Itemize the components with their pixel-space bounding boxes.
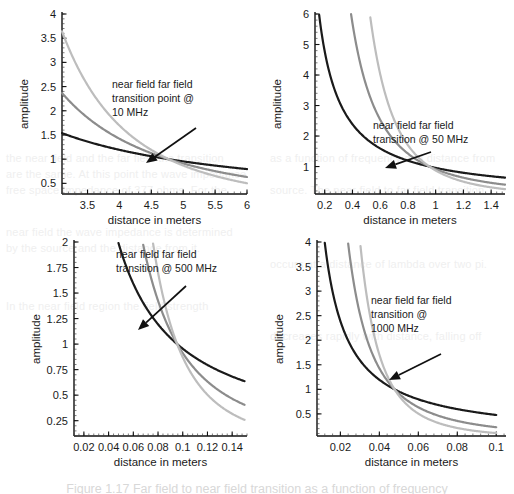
x-axis-tick-label: 0.08 (147, 441, 168, 453)
y-axis-tick-label: 2 (50, 105, 56, 117)
transition-annotation-line: transition @ 50 MHz (373, 133, 468, 145)
y-axis-tick-label: 0.5 (53, 389, 68, 401)
x-axis-tick-label: 0.8 (400, 199, 415, 211)
x-axis-tick-label: 0.04 (369, 441, 390, 453)
x-axis-title: distance in meters (114, 456, 208, 468)
y-axis-tick-label: 3 (50, 56, 56, 68)
plot-area: 1234560.20.40.60.811.21.4distance in met… (255, 0, 514, 228)
y-axis-tick-label: 3 (303, 100, 309, 112)
plot-area: 0.250.50.7511.251.51.7520.020.040.060.08… (0, 228, 255, 494)
data-curve-1r (319, 15, 505, 178)
y-axis-tick-label: 1.5 (41, 129, 56, 141)
x-axis-tick-label: 0.4 (345, 199, 360, 211)
figure-caption: Figure 1.17 Far field to near field tran… (0, 483, 514, 494)
y-axis-tick-label: 6 (303, 8, 309, 20)
y-axis-tick-label: 2.5 (41, 81, 56, 93)
x-axis-tick-label: 0.1 (175, 441, 190, 453)
y-axis-tick-label: 0.75 (47, 364, 68, 376)
y-axis-title: amplitude (30, 314, 42, 364)
annotation-arrow-shaft (155, 128, 196, 157)
x-axis-tick-label: 0.2 (317, 199, 332, 211)
x-axis-tick-label: 0.02 (330, 441, 351, 453)
x-axis-tick-label: 0.12 (197, 441, 218, 453)
y-axis-tick-label: 3.5 (296, 261, 311, 273)
x-axis-tick-label: 0.06 (408, 441, 429, 453)
chart-panel-50mhz: 1234560.20.40.60.811.21.4distance in met… (255, 0, 514, 228)
x-axis-tick-label: 4 (116, 199, 122, 211)
plot-area: 0.511.522.533.543.544.555.56distance in … (0, 0, 255, 228)
x-axis-tick-label: 1 (433, 199, 439, 211)
y-axis-tick-label: 1 (62, 338, 68, 350)
annotation-arrow-head (385, 160, 397, 169)
data-curve-1r2 (62, 93, 247, 177)
x-axis-tick-label: 0.14 (221, 441, 242, 453)
y-axis-tick-label: 1.5 (296, 359, 311, 371)
x-axis-tick-label: 0.04 (98, 441, 119, 453)
y-axis-tick-label: 1.75 (47, 262, 68, 274)
annotation-arrow-shaft (399, 354, 441, 375)
y-axis-tick-label: 0.5 (41, 177, 56, 189)
y-axis-title: amplitude (271, 79, 283, 129)
y-axis-tick-label: 2 (303, 130, 309, 142)
x-axis-tick-label: 6 (244, 199, 250, 211)
transition-annotation-line: near field far field (373, 119, 454, 131)
y-axis-tick-label: 1 (305, 383, 311, 395)
x-axis-title: distance in meters (365, 456, 459, 468)
y-axis-tick-label: 1 (50, 153, 56, 165)
y-axis-tick-label: 4 (50, 8, 56, 20)
y-axis-tick-label: 5 (303, 39, 309, 51)
annotation-arrow-shaft (146, 286, 186, 323)
transition-annotation-line: 1000 MHz (371, 322, 419, 334)
y-axis-title: amplitude (273, 314, 285, 364)
chart-panel-500mhz: 0.250.50.7511.251.51.7520.020.040.060.08… (0, 228, 255, 494)
transition-annotation-line: near field far field (371, 294, 452, 306)
y-axis-tick-label: 3 (305, 285, 311, 297)
data-curve-1r3 (360, 246, 496, 433)
x-axis-tick-label: 1.2 (456, 199, 471, 211)
x-axis-tick-label: 0.1 (489, 441, 504, 453)
transition-annotation-line: near field far field (112, 78, 193, 90)
y-axis-title: amplitude (18, 79, 30, 129)
chart-panel-10mhz: 0.511.522.533.543.544.555.56distance in … (0, 0, 255, 228)
x-axis-tick-label: 1.4 (483, 199, 498, 211)
transition-annotation-line: transition @ 500 MHz (116, 262, 217, 274)
chart-panel-1000mhz: 0.511.522.533.540.020.040.060.080.1dista… (255, 228, 514, 494)
y-axis-tick-label: 3.5 (41, 32, 56, 44)
transition-annotation-line: 10 MHz (112, 106, 148, 118)
y-axis-tick-label: 4 (305, 236, 311, 248)
y-axis-tick-label: 2.5 (296, 310, 311, 322)
transition-annotation-line: transition point @ (112, 92, 194, 104)
y-axis-tick-label: 4 (303, 69, 309, 81)
transition-annotation-line: near field far field (116, 248, 197, 260)
x-axis-tick-label: 5.5 (207, 199, 222, 211)
x-axis-tick-label: 0.08 (447, 441, 468, 453)
x-axis-tick-label: 3.5 (80, 199, 95, 211)
figure-page: the near field and the far field the tra… (0, 0, 514, 494)
x-axis-tick-label: 0.06 (123, 441, 144, 453)
x-axis-tick-label: 4.5 (144, 199, 159, 211)
x-axis-title: distance in meters (363, 214, 457, 226)
x-axis-tick-label: 0.02 (73, 441, 94, 453)
y-axis-tick-label: 2 (305, 334, 311, 346)
x-axis-tick-label: 0.6 (373, 199, 388, 211)
plot-area: 0.511.522.533.540.020.040.060.080.1dista… (255, 228, 514, 494)
transition-annotation-line: transition @ (371, 308, 427, 320)
x-axis-tick-label: 5 (180, 199, 186, 211)
x-axis-title: distance in meters (108, 214, 202, 226)
y-axis-tick-label: 1 (303, 161, 309, 173)
y-axis-tick-label: 0.5 (296, 408, 311, 420)
y-axis-tick-label: 0.25 (47, 415, 68, 427)
y-axis-tick-label: 1.25 (47, 313, 68, 325)
y-axis-tick-label: 2 (62, 236, 68, 248)
y-axis-tick-label: 1.5 (53, 287, 68, 299)
